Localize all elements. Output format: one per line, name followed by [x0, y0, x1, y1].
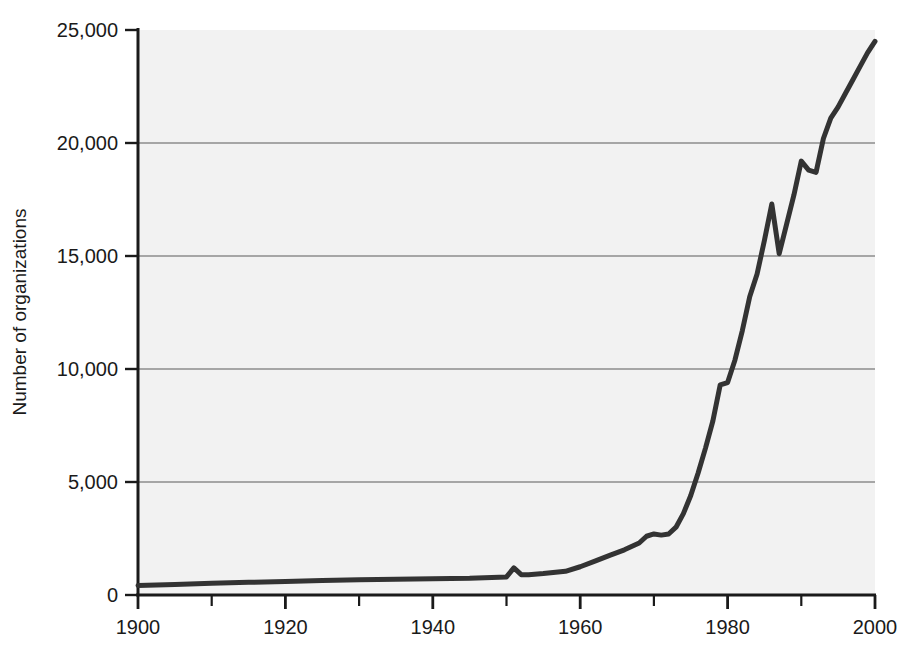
y-axis-tick-label: 10,000	[57, 358, 118, 380]
x-axis-ticks-group	[138, 595, 875, 609]
y-axis-tick-labels-group: 05,00010,00015,00020,00025,000	[57, 19, 118, 606]
figure-container: 05,00010,00015,00020,00025,000 190019201…	[0, 0, 907, 664]
x-axis-tick-label: 2000	[853, 616, 898, 638]
x-axis-tick-label: 1920	[263, 616, 308, 638]
y-axis-ticks-group	[125, 30, 138, 595]
x-axis-tick-label: 1900	[116, 616, 161, 638]
line-chart: 05,00010,00015,00020,00025,000 190019201…	[0, 0, 907, 664]
y-axis-tick-label: 25,000	[57, 19, 118, 41]
y-axis-tick-label: 5,000	[68, 471, 118, 493]
plot-area-background	[138, 30, 875, 595]
x-axis-tick-label: 1960	[558, 616, 603, 638]
x-axis-tick-label: 1980	[705, 616, 750, 638]
x-axis-tick-labels-group: 190019201940196019802000	[116, 616, 898, 638]
x-axis-tick-label: 1940	[411, 616, 456, 638]
y-axis-tick-label: 15,000	[57, 245, 118, 267]
y-axis-tick-label: 0	[107, 584, 118, 606]
y-axis-tick-label: 20,000	[57, 132, 118, 154]
y-axis-title: Number of organizations	[9, 209, 30, 416]
